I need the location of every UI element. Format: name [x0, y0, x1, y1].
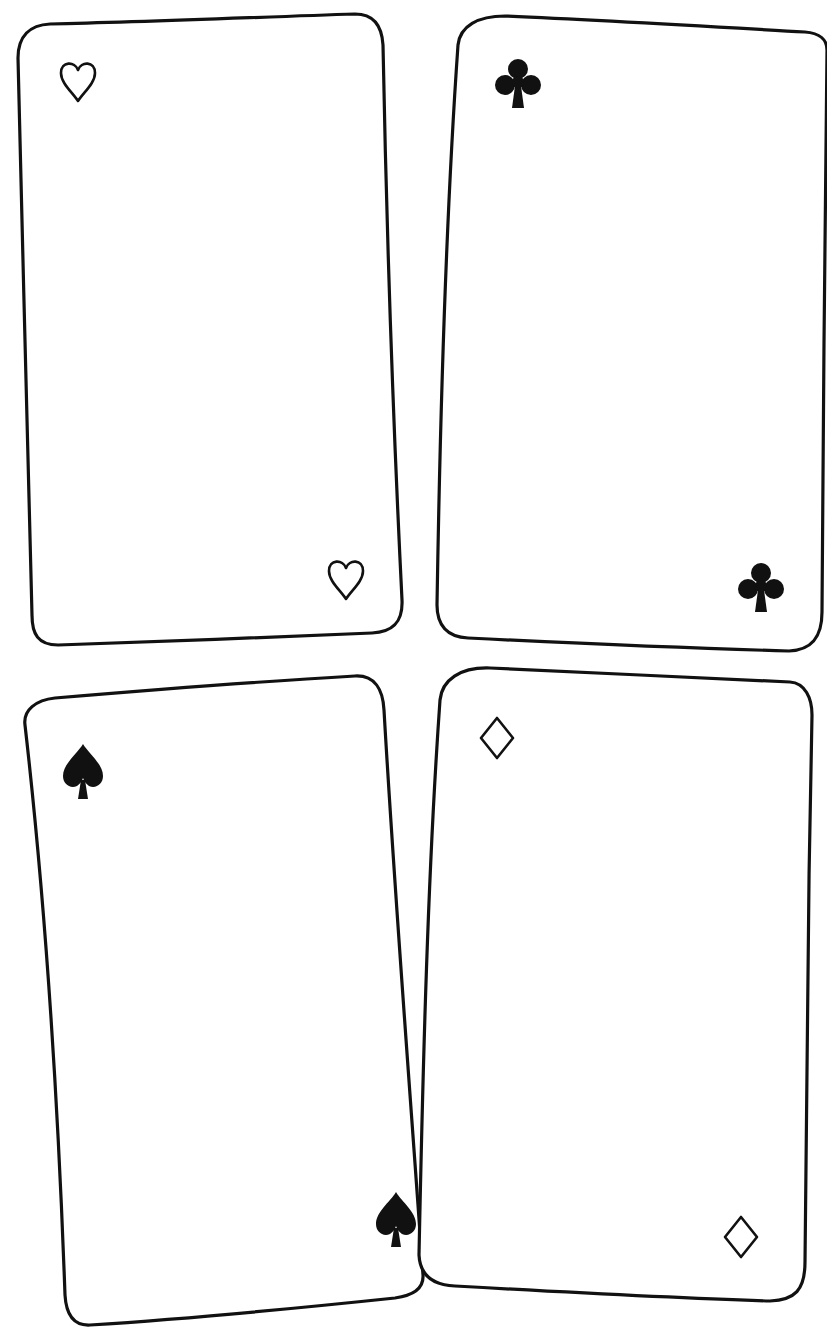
card-clubs: [437, 16, 827, 651]
card-hearts: [18, 14, 402, 645]
card-clubs-outline: [437, 16, 827, 651]
card-spades: [25, 676, 423, 1325]
playing-cards-illustration: [0, 0, 827, 1339]
card-diamonds: [419, 668, 812, 1301]
card-diamonds-outline: [419, 668, 812, 1301]
card-hearts-outline: [18, 14, 402, 645]
